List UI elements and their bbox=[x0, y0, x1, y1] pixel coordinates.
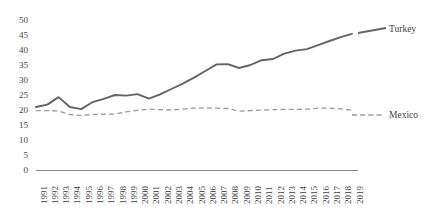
x-axis-tick-2006: 2006 bbox=[209, 186, 218, 204]
series-line-mexico bbox=[36, 108, 352, 116]
x-axis-tick-2014: 2014 bbox=[299, 186, 308, 204]
x-axis-tick-2007: 2007 bbox=[220, 186, 229, 204]
x-axis-tick-1995: 1995 bbox=[85, 186, 94, 204]
x-axis-tick-2018: 2018 bbox=[344, 186, 353, 204]
x-axis-tick-2001: 2001 bbox=[152, 186, 161, 204]
series-label-mexico: Mexico bbox=[389, 110, 418, 120]
x-axis-tick-1994: 1994 bbox=[73, 186, 82, 204]
x-axis-tick-2011: 2011 bbox=[265, 186, 274, 204]
x-axis-tick-2005: 2005 bbox=[198, 186, 207, 204]
x-axis-tick-1991: 1991 bbox=[40, 186, 49, 204]
legend-swatch-mexico bbox=[352, 110, 384, 120]
x-axis-tick-1996: 1996 bbox=[96, 186, 105, 204]
x-axis-tick-2012: 2012 bbox=[277, 186, 286, 204]
x-axis-tick-2008: 2008 bbox=[231, 186, 240, 204]
x-axis-tick-1993: 1993 bbox=[62, 186, 71, 204]
x-axis-tick-2004: 2004 bbox=[186, 186, 195, 204]
x-axis-tick-1998: 1998 bbox=[119, 186, 128, 204]
x-axis-tick-2015: 2015 bbox=[310, 186, 319, 204]
x-axis-tick-1992: 1992 bbox=[51, 186, 60, 204]
series-label-turkey: Turkey bbox=[389, 24, 416, 34]
x-axis-tick-2013: 2013 bbox=[288, 186, 297, 204]
x-axis-tick-2019: 2019 bbox=[356, 186, 365, 204]
legend-swatch-turkey bbox=[358, 24, 386, 38]
x-axis-tick-2003: 2003 bbox=[175, 186, 184, 204]
x-axis-tick-2010: 2010 bbox=[254, 186, 263, 204]
series-line-turkey bbox=[36, 34, 352, 109]
x-axis-tick-1997: 1997 bbox=[107, 186, 116, 204]
line-chart: 50454035302520151050 1991199219931994199… bbox=[0, 0, 436, 211]
x-axis-tick-2016: 2016 bbox=[322, 186, 331, 204]
x-axis-tick-2017: 2017 bbox=[333, 186, 342, 204]
x-axis-tick-1999: 1999 bbox=[130, 186, 139, 204]
x-axis-tick-2002: 2002 bbox=[164, 186, 173, 204]
x-axis-tick-2009: 2009 bbox=[243, 186, 252, 204]
x-axis-tick-2000: 2000 bbox=[141, 186, 150, 204]
